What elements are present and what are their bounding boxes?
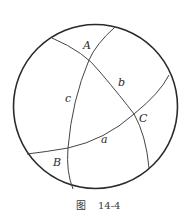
figure-caption-number: 14-4 bbox=[98, 200, 120, 211]
great-circle-c bbox=[68, 27, 115, 189]
vertex-label-b: B bbox=[52, 156, 61, 169]
figure-caption-prefix: 图 bbox=[76, 200, 86, 211]
side-label-a: a bbox=[101, 133, 108, 146]
great-circle-a bbox=[27, 75, 169, 154]
vertex-label-c: C bbox=[139, 112, 148, 125]
side-label-b: b bbox=[118, 76, 125, 89]
vertex-label-a: A bbox=[82, 39, 91, 52]
side-label-c: c bbox=[65, 92, 71, 105]
spherical-triangle-diagram: A B C a b c 图 14-4 bbox=[0, 0, 188, 219]
